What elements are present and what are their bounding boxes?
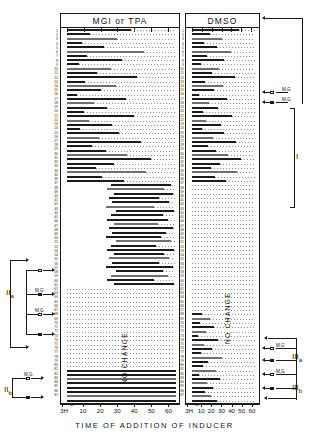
bar-row [192, 124, 221, 126]
lineage-arrow-icon [41, 395, 44, 399]
y-axis-tick-label: 42 [180, 203, 184, 206]
lineage-node-label: M,G [24, 372, 33, 377]
bar-row [107, 279, 154, 281]
bar-row-dotted-extension [192, 233, 255, 234]
bar-row [67, 111, 84, 113]
lineage-connector-horizontal [268, 338, 296, 339]
bar-row-dotted-extension [216, 371, 255, 372]
bar-row [114, 253, 164, 255]
bar-row [106, 236, 161, 238]
lineage-connector-horizontal [26, 334, 38, 335]
panel-left-plot-area [61, 28, 179, 403]
panel-left-title-box: MGI or TPA [61, 14, 179, 28]
bar-row-dotted-extension [156, 246, 175, 247]
bar-row [67, 94, 77, 96]
bar-row [106, 206, 155, 208]
bar-row [192, 94, 199, 96]
bar-row-dotted-extension [228, 155, 255, 156]
bar-row-dotted-extension [192, 194, 255, 195]
bar-row-dotted-extension [173, 194, 175, 195]
bar-row-dotted-extension [192, 250, 255, 251]
bar-row-dotted-extension [239, 30, 255, 31]
bar-row [109, 257, 169, 259]
y-axis-tick-label: 16 [54, 93, 58, 96]
bar-row-dotted-extension [192, 284, 255, 285]
bar-row-dotted-extension [117, 39, 175, 40]
y-axis-tick-label: 29 [180, 148, 184, 151]
bar-row [192, 132, 224, 134]
axis-tick-label: 20 [208, 407, 215, 414]
bar-row-dotted-extension [173, 228, 175, 229]
axis-tick-label: 60 [248, 407, 255, 414]
bar-row-dotted-extension [202, 129, 255, 130]
bar-row-dotted-extension [192, 237, 255, 238]
bar-row-dotted-extension [112, 125, 175, 126]
bar-row [67, 150, 106, 152]
bar-row-dotted-extension [208, 146, 255, 147]
bar-row [192, 128, 202, 130]
axis-line [60, 404, 180, 405]
bar-row [67, 124, 112, 126]
axis-tick-label: 40 [228, 407, 235, 414]
bar-row-dotted-extension [222, 39, 255, 40]
bar-row-dotted-extension [154, 207, 175, 208]
panel-dmso: DMSO NO CHANGE [185, 13, 260, 404]
y-axis-tick-label: 7 [182, 55, 184, 58]
bar-row [192, 46, 217, 48]
y-axis-tick-label: 37 [180, 182, 184, 185]
bar-row-dotted-extension [201, 353, 255, 354]
bar-row-dotted-extension [168, 220, 175, 221]
bar-row-dotted-extension [210, 319, 255, 320]
bar-row-dotted-extension [206, 121, 255, 122]
bar-row [67, 76, 137, 78]
bar-row-dotted-extension [164, 189, 175, 190]
bar-row-dotted-extension [220, 379, 255, 380]
bar-row [192, 42, 204, 44]
bar-row [192, 154, 228, 156]
bar-row-dotted-extension [80, 129, 175, 130]
lineage-arrow-icon [52, 312, 55, 316]
bar-row [67, 115, 134, 117]
bar-row [192, 141, 236, 143]
bar-row [67, 120, 89, 122]
axis-origin-label: 3H [185, 407, 193, 414]
bar-row [67, 137, 99, 139]
bar-row [192, 158, 241, 160]
y-axis-tick-label: 46 [180, 220, 184, 223]
lineage-node-label: M,G [276, 343, 285, 348]
bar-row-dotted-extension [164, 254, 175, 255]
bar-row-dotted-extension [192, 246, 255, 247]
bar-row [192, 180, 226, 182]
bar-row-dotted-extension [237, 172, 255, 173]
y-axis-tick-label: 33 [180, 165, 184, 168]
y-axis-tick-label: 24 [180, 127, 184, 130]
lineage-arrow-icon [262, 16, 265, 20]
lineage-connector-horizontal [10, 260, 26, 261]
y-axis-tick-label: 24 [54, 127, 58, 130]
bar-row [111, 214, 163, 216]
bar-row [192, 378, 220, 380]
bar-row-dotted-extension [174, 250, 175, 251]
bar-row [192, 326, 214, 328]
bar-row-dotted-extension [203, 366, 255, 367]
lineage-arrow-icon [52, 268, 55, 272]
y-axis-tick-label: 55 [180, 258, 184, 261]
bar-row [112, 201, 169, 203]
bar-row-dotted-extension [137, 77, 175, 78]
bar-row-dotted-extension [104, 47, 175, 48]
lineage-node-label: M,G [282, 97, 291, 102]
lineage-connector-horizontal [268, 398, 296, 399]
bar-row-dotted-extension [203, 112, 255, 113]
bar-row-dotted-extension [214, 90, 255, 91]
bar-row [192, 313, 202, 315]
axis-tick-label: 40 [131, 407, 138, 414]
lineage-connector-horizontal [276, 348, 296, 349]
bar-row-dotted-extension [154, 280, 175, 281]
bar-row-dotted-extension [204, 43, 255, 44]
y-axis-tick-label: 16 [180, 93, 184, 96]
bar-row [67, 163, 114, 165]
no-change-label-left: NO CHANGE [121, 332, 128, 384]
bar-row [192, 72, 212, 74]
bar-row [192, 387, 213, 389]
y-axis-tick-label: 81 [54, 368, 58, 371]
